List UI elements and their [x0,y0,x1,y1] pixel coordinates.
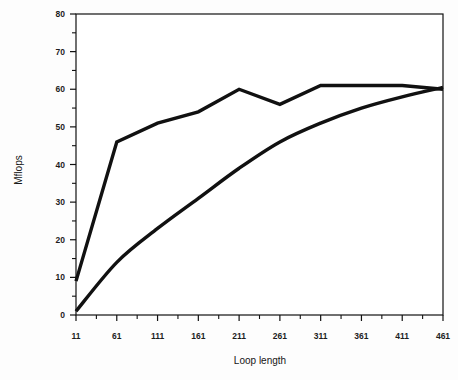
y-tick-label: 10 [56,272,66,282]
chart-container: 01020304050607080 1161111161211261311361… [0,0,458,380]
x-axis-ticks [76,315,443,321]
y-axis-ticks [70,14,76,315]
plot-area-frame [76,14,443,315]
x-tick-label: 11 [72,331,81,341]
x-tick-label: 211 [232,331,246,341]
y-tick-label: 40 [56,160,66,170]
x-tick-label: 461 [436,331,450,341]
y-tick-label: 70 [56,47,66,57]
x-tick-label: 361 [354,331,368,341]
y-tick-label: 60 [56,84,66,94]
y-tick-label: 50 [56,122,66,132]
x-tick-label: 261 [273,331,287,341]
x-tick-label: 411 [395,331,409,341]
x-tick-label: 161 [191,331,205,341]
y-tick-label: 30 [56,197,66,207]
y-tick-label: 80 [56,9,66,19]
x-tick-label: 61 [112,331,122,341]
y-axis-tick-labels: 01020304050607080 [56,9,66,320]
line-chart: 01020304050607080 1161111161211261311361… [0,0,458,380]
x-axis-tick-labels: 1161111161211261311361411461 [72,331,451,341]
y-tick-label: 0 [60,310,65,320]
x-axis-title: Loop length [234,355,286,366]
x-tick-label: 311 [314,331,328,341]
y-axis-title: Mflops [13,155,24,184]
x-tick-label: 111 [151,331,165,341]
y-tick-label: 20 [56,235,66,245]
